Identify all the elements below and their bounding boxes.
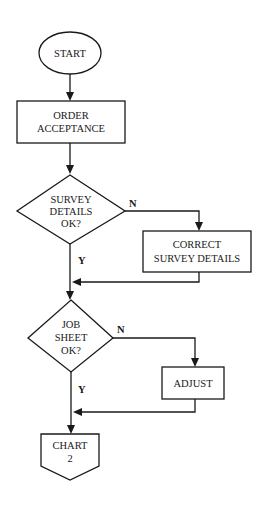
job-sheet-line3: OK? [61, 345, 81, 356]
survey-details-decision: SURVEY DETAILS OK? [17, 175, 125, 244]
chart-2-line2: 2 [67, 453, 72, 464]
edge-start-to-order [66, 74, 74, 101]
correct-survey-line2: SURVEY DETAILS [154, 253, 240, 264]
adjust-node: ADJUST [162, 367, 224, 399]
arrow-left-icon [72, 278, 81, 286]
branch-label-yes: Y [78, 384, 86, 395]
arrow-down-icon [67, 425, 75, 434]
flowchart: START ORDER ACCEPTANCE SURVEY DETAILS OK… [0, 0, 269, 506]
order-acceptance-label-line1: ORDER [53, 110, 89, 121]
arrow-down-icon [191, 358, 199, 367]
edge-survey-no: N [125, 198, 203, 231]
arrow-down-icon [66, 165, 74, 174]
arrow-down-icon [195, 222, 203, 231]
order-acceptance-label-line2: ACCEPTANCE [37, 123, 105, 134]
edge-job-sheet-no: N [113, 324, 199, 367]
arrow-down-icon [66, 291, 74, 300]
start-label: START [54, 48, 86, 59]
edge-correct-return [72, 272, 199, 286]
arrow-down-icon [66, 92, 74, 101]
correct-survey-line1: CORRECT [173, 239, 222, 250]
branch-label-no: N [117, 324, 125, 335]
edge-order-to-survey [66, 143, 74, 174]
edge-adjust-return [73, 399, 195, 416]
survey-decision-line3: OK? [61, 218, 81, 229]
branch-label-no: N [129, 198, 137, 209]
arrow-left-icon [73, 408, 82, 416]
correct-survey-details-node: CORRECT SURVEY DETAILS [143, 231, 251, 272]
survey-decision-line1: SURVEY [50, 194, 92, 205]
start-node: START [39, 32, 101, 74]
survey-decision-line2: DETAILS [50, 206, 93, 217]
branch-label-yes: Y [78, 255, 86, 266]
chart-2-connector: CHART 2 [41, 434, 99, 480]
job-sheet-line2: SHEET [55, 332, 88, 343]
chart-2-line1: CHART [53, 440, 89, 451]
edge-survey-yes: Y [66, 244, 86, 300]
order-acceptance-node: ORDER ACCEPTANCE [17, 101, 125, 143]
job-sheet-line1: JOB [62, 319, 81, 330]
adjust-label: ADJUST [173, 378, 213, 389]
job-sheet-decision: JOB SHEET OK? [28, 300, 113, 372]
edge-job-sheet-yes: Y [67, 372, 86, 434]
